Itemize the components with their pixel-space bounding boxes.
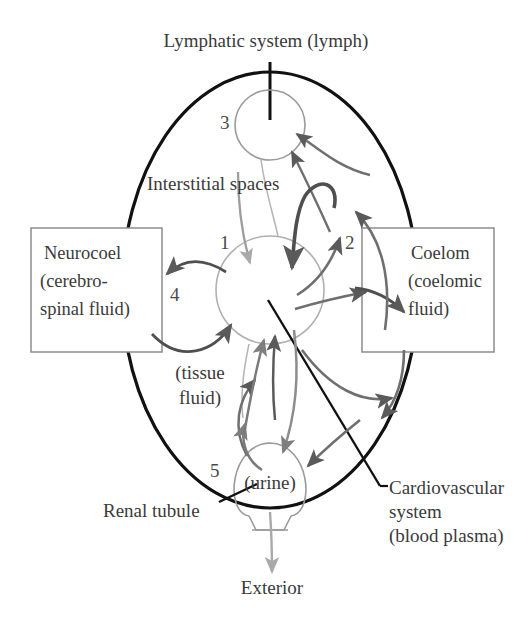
arrow-neurocoel-to-interstitial xyxy=(152,325,231,352)
arrow-to-exterior xyxy=(270,512,272,572)
arrow-blood-to-interstitial-lower-a xyxy=(273,336,275,420)
arrow-blood-to-renal xyxy=(308,420,360,466)
compartment-number-4: 4 xyxy=(170,284,180,306)
arrow-interstitial-to-lymph-a xyxy=(297,134,370,175)
compartment-1-circle xyxy=(216,236,324,344)
coelom-box-line2: (coelomic xyxy=(408,270,482,293)
urine-label: (urine) xyxy=(222,472,318,494)
interstitial-spaces-label: Interstitial spaces xyxy=(147,173,279,195)
coelom-box-line1: Coelom xyxy=(411,242,470,265)
arrow-renal-reabsorb-up xyxy=(243,424,262,470)
coelom-box-line3: fluid) xyxy=(408,298,449,321)
cardiovascular-label-line1: Cardiovascular xyxy=(389,477,504,499)
cardiovascular-label-line2: system xyxy=(389,501,442,523)
arrow-interstitial-to-neurocoel xyxy=(167,262,226,274)
tissue-fluid-label-line2: fluid) xyxy=(155,387,245,409)
exterior-label: Exterior xyxy=(212,577,332,599)
tissue-fluid-label-line1: (tissue xyxy=(155,362,245,384)
compartment-number-3: 3 xyxy=(220,112,230,134)
compartment-number-5: 5 xyxy=(210,460,220,482)
compartment-number-1: 1 xyxy=(220,232,230,254)
figure-canvas: Lymphatic system (lymph) Interstitial sp… xyxy=(0,0,532,621)
cardiovascular-label-line3: (blood plasma) xyxy=(389,525,504,547)
neurocoel-box-line2: (cerebro- xyxy=(40,270,108,293)
interstitial-leader-curve xyxy=(261,159,278,236)
arrow-coelom-return-lower xyxy=(302,350,392,399)
compartment-number-2: 2 xyxy=(345,232,355,254)
arrow-interstitial-to-renal xyxy=(283,330,297,452)
neurocoel-box-line3: spinal fluid) xyxy=(40,298,130,321)
renal-tubule-label: Renal tubule xyxy=(103,500,200,522)
neurocoel-box-line1: Neurocoel xyxy=(44,242,121,265)
lymphatic-system-label: Lymphatic system (lymph) xyxy=(0,30,532,52)
arrow-interstitial-to-coelom xyxy=(295,292,366,309)
